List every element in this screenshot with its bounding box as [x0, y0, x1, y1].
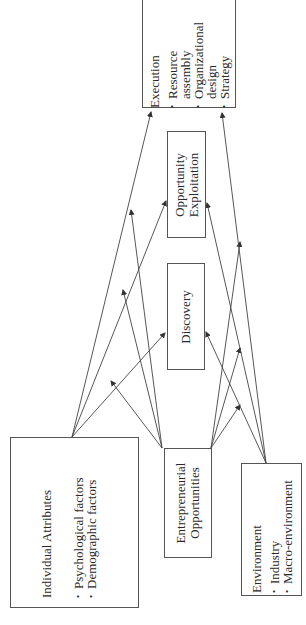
environment-title: Environment: [250, 467, 264, 593]
exploitation-line-1: Opportunity: [173, 152, 187, 216]
opportunities-line-1: Entrepreneurial: [174, 463, 188, 544]
arrow-environment-to-exploitation: [207, 203, 266, 463]
environment-list: Industry Macro-environment: [268, 467, 294, 593]
execution-item: Organizationaldesign: [192, 0, 218, 108]
opportunities-line-2: Opportunities: [188, 463, 202, 544]
exploitation-line-2: Exploitation: [187, 152, 201, 216]
arrow-opportunities-to-individual-link-3: [131, 210, 162, 448]
arrow-opportunities-to-execution: [211, 242, 240, 448]
execution-item: Strategy: [218, 0, 231, 108]
opportunity-exploitation-box: Opportunity Exploitation: [167, 131, 206, 238]
arrow-environment-to-discovery: [206, 332, 266, 463]
individual-attributes-title: Individual Attributes: [40, 448, 54, 598]
arrow-individual-to-exploitation: [72, 201, 166, 437]
environment-item: Industry: [268, 467, 281, 593]
individual-attributes-list: Psychological factors Demographic factor…: [72, 448, 98, 598]
individual-attributes-box: Individual Attributes Psychological fact…: [10, 437, 139, 608]
arrow-opportunities-to-exploitation: [211, 348, 240, 448]
arrow-environment-to-execution: [222, 113, 266, 463]
individual-attributes-item: Psychological factors: [72, 448, 85, 598]
discovery-box: Discovery: [167, 263, 205, 370]
environment-item: Macro-environment: [281, 467, 294, 593]
execution-title: Execution: [148, 0, 162, 108]
execution-box: Execution Resourceassembly Organizationa…: [142, 0, 236, 108]
individual-attributes-item: Demographic factors: [85, 448, 98, 598]
execution-item: Resourceassembly: [166, 0, 192, 108]
arrow-individual-to-discovery: [72, 333, 165, 437]
discovery-label: Discovery: [179, 290, 193, 343]
entrepreneurial-opportunities-box: Entrepreneurial Opportunities: [164, 448, 212, 558]
environment-box: Environment Industry Macro-environment: [241, 463, 302, 596]
arrow-opportunities-to-individual-link-2: [123, 290, 162, 448]
execution-list: Resourceassembly Organizationaldesign St…: [166, 0, 231, 108]
arrow-opportunities-to-discovery: [211, 405, 240, 448]
